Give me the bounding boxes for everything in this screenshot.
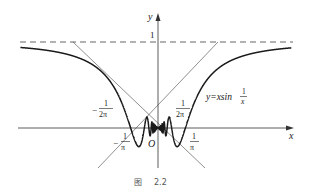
svg-text:2π: 2π bbox=[176, 110, 184, 119]
svg-text:y=xsin: y=xsin bbox=[205, 92, 232, 102]
caption-prefix: 图 bbox=[134, 178, 142, 187]
x-axis-label: x bbox=[288, 130, 294, 141]
tick-label-pos-inv-pi: 1 π bbox=[190, 132, 199, 152]
caption-number: 2.2 bbox=[154, 178, 167, 187]
function-label: y=xsin 1 x bbox=[205, 87, 247, 106]
svg-text:π: π bbox=[190, 143, 194, 152]
function-diagram: y 1 x O y=xsin 1 x − 1 2π 1 2π − 1 π 1 π… bbox=[0, 0, 312, 194]
asymptote-value-label: 1 bbox=[150, 30, 155, 40]
svg-text:π: π bbox=[121, 143, 125, 152]
tick-label-neg-inv-2pi: − 1 2π bbox=[92, 99, 113, 119]
tick-label-neg-inv-pi: − 1 π bbox=[113, 132, 130, 152]
svg-text:−: − bbox=[113, 138, 118, 148]
svg-text:1: 1 bbox=[192, 132, 196, 141]
svg-text:1: 1 bbox=[123, 132, 127, 141]
y-axis-arrow-icon bbox=[156, 13, 161, 21]
svg-text:−: − bbox=[92, 105, 97, 115]
svg-text:2π: 2π bbox=[99, 110, 107, 119]
origin-label: O bbox=[148, 138, 155, 149]
svg-text:1: 1 bbox=[242, 87, 246, 96]
svg-text:1: 1 bbox=[104, 99, 108, 108]
svg-text:1: 1 bbox=[181, 99, 185, 108]
svg-text:x: x bbox=[240, 97, 245, 106]
tick-label-pos-inv-2pi: 1 2π bbox=[176, 99, 190, 119]
curve-x-sin-inv-x bbox=[20, 47, 291, 146]
y-axis-label: y bbox=[147, 11, 153, 22]
